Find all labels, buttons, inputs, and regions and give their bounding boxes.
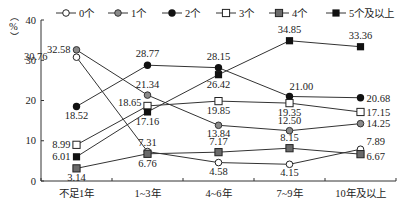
legend-label: 2个 [185,8,201,19]
x-axis: 不足1年1~3年4~6年7~9年10年及以上 [41,178,396,199]
square-filled-marker-icon [332,9,339,16]
square-gray-marker-icon [215,149,222,156]
data-point-label: 6.67 [367,151,385,162]
legend-label: 5个及以上 [349,8,394,19]
y-axis-unit: % [9,21,18,32]
data-point-label: 21.34 [136,79,160,90]
data-point-label: 4.58 [209,166,227,177]
legend-label: 0个 [79,8,95,19]
data-point-label: 17.16 [136,116,160,127]
square-gray-marker-icon [357,151,364,158]
square-open-marker-icon [357,108,364,115]
y-tick-label: 10 [26,135,37,146]
data-point-label: 3.14 [67,172,86,183]
square-filled-marker-icon [73,153,80,160]
circle-gray-marker-icon [73,47,80,54]
data-point-label: 21.00 [290,81,314,92]
legend-item: 2个 [162,8,201,19]
y-unit-paren-close: ︶ [10,32,19,42]
y-tick-label: 0 [31,176,36,187]
circle-gray-marker-icon [144,92,151,99]
legend: 0个1个2个3个4个5个及以上 [56,8,394,19]
y-tick-label: 40 [26,15,37,26]
data-point-label: 28.15 [207,51,231,62]
data-point-label: 32.58 [47,44,71,55]
legend-label: 3个 [239,8,255,19]
circle-filled-marker-icon [144,62,151,69]
data-point-label: 34.85 [278,24,302,35]
legend-item: 3个 [216,8,255,19]
data-point-label: 28.77 [136,48,160,59]
square-open-marker-icon [222,9,229,16]
data-point-label: 6.01 [52,151,70,162]
x-category-label: 1~3年 [134,187,160,199]
circle-open-marker-icon [63,10,70,17]
legend-label: 1个 [131,8,147,19]
series-line [77,50,361,131]
data-point-label: 20.68 [367,93,391,104]
circle-filled-marker-icon [215,64,222,71]
data-point-label: 7.17 [209,136,227,147]
x-category-label: 不足1年 [59,187,94,199]
square-open-marker-icon [286,100,293,107]
legend-item: 4个 [269,8,308,19]
data-point-label: 19.85 [207,105,231,116]
legend-item: 5个及以上 [326,8,394,19]
x-category-label: 10年及以上 [335,187,386,199]
data-point-label: 4.15 [280,167,298,178]
circle-filled-marker-icon [357,94,364,101]
x-category-label: 4~6年 [205,187,231,199]
data-point-label: 30.76 [24,51,48,62]
y-unit-paren-open: ︵ [10,12,19,22]
circle-gray-marker-icon [357,120,364,127]
data-point-label: 18.65 [118,97,142,108]
legend-label: 4个 [292,8,308,19]
square-open-marker-icon [215,98,222,105]
square-filled-marker-icon [144,108,151,115]
data-point-label: 7.31 [138,137,156,148]
square-gray-marker-icon [286,145,293,152]
square-open-marker-icon [73,141,80,148]
x-category-label: 7~9年 [276,187,302,199]
data-point-label: 26.42 [207,79,231,90]
data-point-label: 14.25 [367,118,391,129]
legend-item: 1个 [108,8,147,19]
y-axis: 010203040 % ︵ ︶ [9,12,44,187]
square-filled-marker-icon [286,37,293,44]
square-filled-marker-icon [215,71,222,78]
y-tick-label: 20 [26,95,37,106]
data-point-label: 6.76 [138,158,156,169]
circle-open-marker-icon [73,54,80,61]
circle-filled-marker-icon [73,103,80,110]
square-gray-marker-icon [73,165,80,172]
data-point-label: 8.15 [280,132,298,143]
circle-filled-marker-icon [168,9,175,16]
data-point-label: 19.35 [278,107,302,118]
data-point-label: 8.99 [52,139,70,150]
square-filled-marker-icon [357,43,364,50]
square-gray-marker-icon [144,150,151,157]
data-point-label: 7.89 [367,136,385,147]
data-point-label: 18.52 [65,110,89,121]
data-point-label: 17.15 [367,107,391,118]
circle-gray-marker-icon [115,10,122,17]
square-gray-marker-icon [275,9,282,16]
data-point-label: 33.36 [349,30,373,41]
line-chart: 010203040 % ︵ ︶ 不足1年1~3年4~6年7~9年10年及以上 3… [0,0,408,208]
legend-item: 0个 [56,8,95,19]
